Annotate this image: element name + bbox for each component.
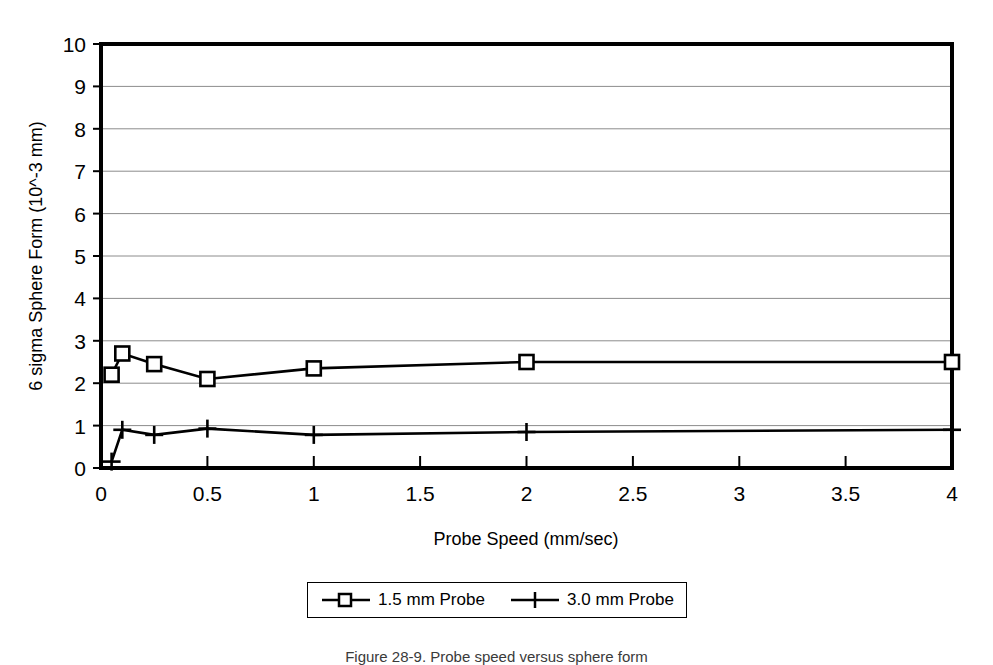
data-point-marker-square — [115, 347, 129, 361]
y-tick-label: 10 — [63, 33, 86, 56]
data-point-marker-square — [945, 355, 959, 369]
data-point-marker-square — [307, 361, 321, 375]
y-tick-labels: 0 1 2 3 4 5 6 7 8 9 10 — [63, 33, 87, 480]
data-point-marker-square — [520, 355, 534, 369]
data-point-marker-square — [200, 372, 214, 386]
x-tick-label: 0 — [95, 482, 107, 505]
x-tick-label: 3.5 — [831, 482, 860, 505]
x-tick-label: 3 — [733, 482, 745, 505]
legend-label-1-5mm: 1.5 mm Probe — [378, 590, 485, 610]
x-tick-label: 2.5 — [618, 482, 647, 505]
y-tick-label: 0 — [74, 457, 86, 480]
y-tick-label: 5 — [74, 245, 86, 268]
y-tick-label: 1 — [74, 415, 86, 438]
y-tick-label: 6 — [74, 203, 86, 226]
y-tick-label: 9 — [74, 75, 86, 98]
legend-swatch-plus-marker — [509, 591, 561, 609]
legend-entry-3-0mm: 3.0 mm Probe — [509, 590, 674, 610]
legend-entry-1-5mm: 1.5 mm Probe — [320, 590, 485, 610]
legend-swatch-square-marker — [320, 591, 372, 609]
y-tick-label: 8 — [74, 118, 86, 141]
x-tick-labels: 0 0.5 1 1.5 2 2.5 3 3.5 4 — [95, 482, 958, 505]
y-tick-label: 3 — [74, 330, 86, 353]
x-tick-label: 4 — [946, 482, 958, 505]
y-axis-title: 6 sigma Sphere Form (10^-3 mm) — [26, 121, 46, 391]
legend-label-3-0mm: 3.0 mm Probe — [567, 590, 674, 610]
x-tick-label: 1.5 — [405, 482, 434, 505]
x-tick-label: 0.5 — [193, 482, 222, 505]
data-point-marker-square — [105, 368, 119, 382]
x-tick-label: 2 — [521, 482, 533, 505]
y-tick-label: 7 — [74, 160, 86, 183]
y-tick-label: 2 — [74, 372, 86, 395]
data-point-marker-square — [147, 357, 161, 371]
chart-legend: 1.5 mm Probe 3.0 mm Probe — [307, 582, 687, 618]
figure-caption: Figure 28-9. Probe speed versus sphere f… — [0, 648, 993, 665]
x-axis-title: Probe Speed (mm/sec) — [433, 529, 618, 549]
y-tick-label: 4 — [74, 287, 86, 310]
x-tick-label: 1 — [308, 482, 320, 505]
chart-plot: 0 1 2 3 4 5 6 7 8 9 10 0 0.5 1 1.5 2 2.5… — [0, 0, 993, 560]
